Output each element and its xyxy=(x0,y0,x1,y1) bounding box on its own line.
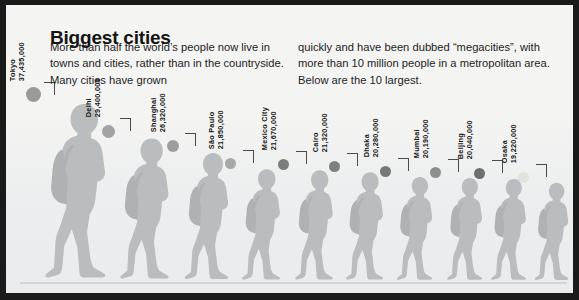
city-color-dot xyxy=(474,168,485,179)
city-label: Cairo21,320,000 xyxy=(312,113,329,152)
city-color-dot xyxy=(26,87,41,102)
city-label: Mumbai20,190,000 xyxy=(413,119,430,158)
leader-line xyxy=(536,164,547,177)
page-content: Biggest cities More than half the world’… xyxy=(6,5,573,293)
person-silhouette-icon xyxy=(532,179,572,283)
city-population: 20,190,000 xyxy=(421,119,430,158)
leader-line xyxy=(120,118,131,131)
city-population: 20,280,000 xyxy=(371,118,380,157)
infographic-page: Biggest cities More than half the world’… xyxy=(0,0,579,300)
city-color-dot xyxy=(329,161,340,172)
city-color-dot xyxy=(278,159,289,170)
leader-line xyxy=(185,133,196,146)
city-population: 20,040,000 xyxy=(465,120,474,159)
city-population: 21,670,000 xyxy=(269,107,278,150)
city-color-dot xyxy=(380,166,391,177)
leader-line xyxy=(296,151,307,164)
city-label: Shanghai26,320,000 xyxy=(150,93,167,132)
page-frame-top xyxy=(0,0,579,5)
intro-paragraph-right: quickly and have been dubbed “megacities… xyxy=(298,39,560,88)
city-label: São Paulo21,850,000 xyxy=(208,110,225,149)
intro-paragraph-left: More than half the world’s people now li… xyxy=(50,39,298,88)
city-color-dot xyxy=(518,172,529,183)
leader-line xyxy=(243,150,254,163)
city-color-dot xyxy=(430,167,441,178)
page-frame-left xyxy=(0,0,6,300)
city-label: Dhaka20,280,000 xyxy=(363,118,380,157)
city-label: Mexico City21,670,000 xyxy=(261,107,278,150)
city-population: 21,850,000 xyxy=(216,110,225,149)
city-color-dot xyxy=(167,140,179,152)
person-silhouette-icon xyxy=(116,133,174,283)
page-frame-bottom xyxy=(0,293,579,300)
leader-line xyxy=(347,153,358,166)
city-population: 19,220,000 xyxy=(509,124,518,163)
page-frame-right xyxy=(573,0,579,300)
city-population: 21,320,000 xyxy=(320,113,329,152)
leader-line xyxy=(448,159,459,172)
city-label: Beijing20,040,000 xyxy=(457,120,474,159)
leader-line xyxy=(398,158,409,171)
city-label: Osaka19,220,000 xyxy=(501,124,518,163)
city-color-dot xyxy=(225,158,236,169)
city-group[interactable]: Osaka19,220,000 xyxy=(518,119,573,283)
city-label: Tokyo37,435,000 xyxy=(9,42,26,81)
city-population: 37,435,000 xyxy=(17,42,26,81)
city-color-dot xyxy=(102,125,115,138)
city-population: 26,320,000 xyxy=(158,93,167,132)
